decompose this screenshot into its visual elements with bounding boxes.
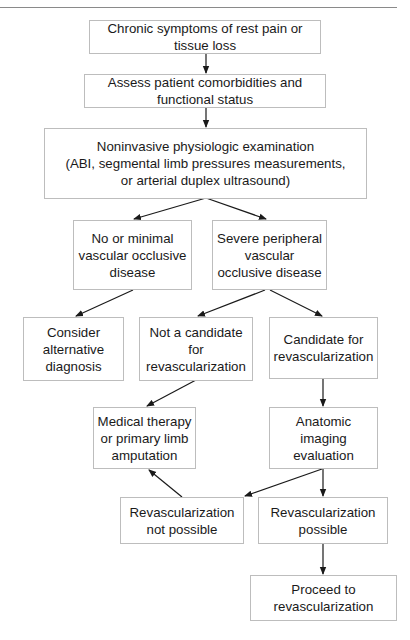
arrow-n3-n4 [134,198,206,219]
node-label: Proceed to revascularization [274,581,374,615]
arrow-n7-n9 [147,380,196,406]
arrow-n4-n6 [76,290,133,316]
arrow-n5-n7 [198,290,265,316]
node-label: Anatomic imaging evaluation [293,413,354,464]
node-assess-comorbidities: Assess patient comorbidities and functio… [84,74,326,108]
node-label: No or minimal vascular occlusive disease [79,230,187,281]
node-anatomic-imaging: Anatomic imaging evaluation [269,407,378,469]
node-label: Noninvasive physiologic examination (ABI… [65,138,345,189]
node-label: Medical therapy or primary limb amputati… [98,413,192,464]
arrow-n5-n8 [270,290,322,316]
node-label: Consider alternative diagnosis [43,324,104,375]
node-candidate: Candidate for revascularization [269,317,378,379]
node-label: Not a candidate for revascularization [146,324,246,375]
node-revasc-possible: Revascularization possible [258,497,388,544]
node-medical-therapy: Medical therapy or primary limb amputati… [93,407,196,469]
node-not-candidate: Not a candidate for revascularization [139,317,253,381]
node-chronic-symptoms: Chronic symptoms of rest pain or tissue … [89,20,321,54]
node-label: Chronic symptoms of rest pain or tissue … [107,20,302,54]
arrow-n3-n5 [206,198,266,219]
node-label: Candidate for revascularization [274,331,374,365]
node-label: Assess patient comorbidities and functio… [108,74,302,108]
arrow-n11-n9 [149,470,182,497]
node-no-minimal-disease: No or minimal vascular occlusive disease [73,220,192,290]
node-severe-disease: Severe peripheral vascular occlusive dis… [212,220,327,290]
node-revasc-not-possible: Revascularization not possible [120,497,244,544]
node-noninvasive-exam: Noninvasive physiologic examination (ABI… [44,128,367,199]
top-rule-divider [0,7,397,8]
node-proceed-revasc: Proceed to revascularization [250,575,397,621]
node-label: Revascularization not possible [130,504,235,538]
node-consider-alternative: Consider alternative diagnosis [23,317,124,381]
arrow-n10-n11 [245,469,322,496]
node-label: Revascularization possible [271,504,376,538]
node-label: Severe peripheral vascular occlusive dis… [217,230,322,281]
